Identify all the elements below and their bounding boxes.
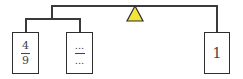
numerator: ... bbox=[75, 40, 85, 52]
fraction-box-unknown[interactable]: ... ... bbox=[66, 32, 93, 74]
fraction: 4 9 bbox=[21, 40, 30, 67]
fraction-box-4-9: 4 9 bbox=[12, 32, 39, 74]
sub-beam-right-drop bbox=[79, 18, 81, 32]
left-beam-drop bbox=[51, 5, 53, 19]
denominator: 9 bbox=[22, 55, 29, 67]
whole-box-1: 1 bbox=[204, 32, 230, 74]
right-beam-drop bbox=[216, 5, 218, 32]
sub-beam-left-drop bbox=[25, 18, 27, 32]
fraction-bar bbox=[75, 53, 85, 54]
sub-beam bbox=[25, 18, 80, 20]
whole-value: 1 bbox=[213, 45, 222, 61]
numerator: 4 bbox=[22, 40, 29, 52]
denominator: ... bbox=[75, 55, 85, 67]
fulcrum-triangle-icon bbox=[126, 5, 144, 22]
fraction: ... ... bbox=[75, 40, 85, 67]
